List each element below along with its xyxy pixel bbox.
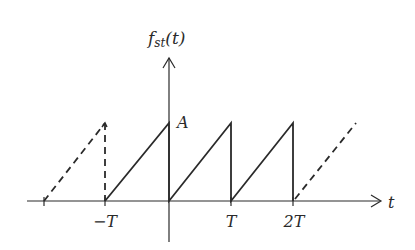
- amplitude-label: A: [175, 113, 189, 132]
- sawtooth-diagram: fst(t) A t −T T 2T: [0, 0, 415, 250]
- tick-label-T: T: [226, 212, 238, 231]
- y-axis-label: fst(t): [146, 28, 185, 50]
- dashed-ramp-right: [295, 123, 356, 199]
- diagram-canvas: fst(t) A t −T T 2T: [0, 0, 415, 250]
- dashed-ramp-left: [44, 123, 105, 201]
- x-axis-label: t: [388, 193, 395, 212]
- sawtooth-solid: [105, 123, 293, 201]
- tick-label-minus-T: −T: [93, 212, 118, 231]
- tick-label-2T: 2T: [283, 212, 306, 231]
